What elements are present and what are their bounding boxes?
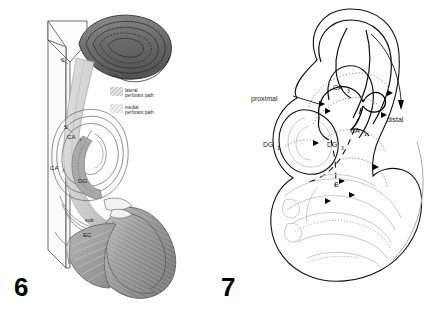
figure-panel-7: proximal distal CA 3 CA 1 DG (221, 0, 442, 319)
panel-number-6: 6 (14, 272, 28, 303)
figure-plate: S S CA 3 CA 1 DG sub EC lateral perfora (0, 0, 442, 319)
label-proximal: proximal (251, 95, 278, 103)
svg-text:3: 3 (341, 145, 344, 151)
label-ec: EC (83, 232, 92, 238)
entorhinal-cortex (66, 207, 176, 298)
label-s-upper: S (61, 57, 65, 63)
panel-6-drawing: S S CA 3 CA 1 DG sub EC lateral perfora (0, 0, 221, 319)
svg-text:DG: DG (263, 141, 274, 148)
legend-medial-line1: medial (125, 105, 139, 110)
svg-text:CA: CA (50, 164, 59, 171)
label-distal: distal (387, 116, 404, 123)
panel-7-drawing: proximal distal CA 3 CA 1 DG (221, 0, 442, 319)
svg-text:CA: CA (333, 84, 343, 91)
svg-text:DG: DG (327, 141, 338, 148)
lateral-perforant-path-swatch (110, 87, 123, 96)
panel-number-7: 7 (221, 272, 235, 303)
figure-panel-6: S S CA 3 CA 1 DG sub EC lateral perfora (0, 0, 221, 319)
label-sub: sub (85, 217, 94, 223)
perforant-path-legend: lateral perforant path medial perforant … (110, 87, 154, 115)
svg-text:CA: CA (350, 127, 360, 134)
svg-text:1: 1 (277, 145, 280, 151)
label-dg: DG (78, 177, 87, 184)
svg-text:1: 1 (364, 131, 367, 137)
legend-medial-line2: perforant path (125, 110, 154, 115)
medial-perforant-path-swatch (110, 104, 123, 113)
svg-text:CA: CA (67, 133, 76, 140)
svg-text:3: 3 (347, 88, 350, 94)
sub-ec-flap (104, 198, 132, 218)
legend-lateral-line1: lateral (125, 88, 138, 93)
dorsal-hippocampus (79, 15, 171, 82)
legend-lateral-line2: perforant path (125, 93, 154, 98)
label-s-lower: S (64, 124, 68, 130)
label-s: S (334, 181, 339, 188)
